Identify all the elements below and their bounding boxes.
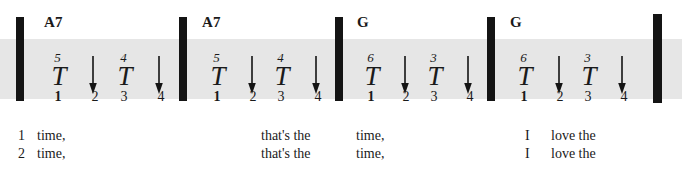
thumb-strum-symbol: 4T (108, 52, 142, 89)
lyric-verse-2-word-time: time, (37, 146, 65, 162)
barline-3 (335, 17, 343, 101)
thumb-letter-t: T (265, 63, 299, 89)
lyric-verse-2-word-time-2: time, (356, 146, 384, 162)
beat-count-label: 4 (149, 90, 173, 104)
beat-count-label: 1 (359, 90, 383, 104)
lyric-verse-2-ending-2: 2 (18, 146, 25, 162)
lyric-verse-1-ending-1: 1 (18, 128, 25, 144)
thumb-strum-symbol: 5T (201, 52, 235, 89)
thumb-strum-symbol: 6T (355, 52, 389, 89)
thumb-letter-t: T (508, 63, 542, 89)
lyric-verse-1-word-i: I (525, 128, 530, 144)
beat-count-label: 4 (306, 90, 330, 104)
lyric-verse-2-word-i: I (525, 146, 530, 162)
beat-count-label: 4 (458, 90, 482, 104)
lyric-verse-1-word-time-2: time, (356, 128, 384, 144)
thumb-strum-symbol: 3T (418, 52, 452, 89)
music-notation-sheet: A75T4T1234A75T4T1234G6T3T1234G6T3T1234 1… (0, 0, 682, 170)
beat-count-label: 3 (269, 90, 293, 104)
beat-count-label: 2 (394, 90, 418, 104)
thumb-letter-t: T (201, 63, 235, 89)
thumb-letter-t: T (108, 63, 142, 89)
barline-5 (653, 14, 662, 103)
thumb-strum-symbol: 3T (572, 52, 606, 89)
thumb-letter-t: T (572, 63, 606, 89)
lyric-verse-1-word-thats-the: that's the (261, 128, 311, 144)
beat-count-label: 3 (422, 90, 446, 104)
barline-1 (16, 17, 24, 101)
chord-symbol: G (357, 15, 369, 30)
beat-count-label: 3 (112, 90, 136, 104)
lyric-verse-1-word-time: time, (37, 128, 65, 144)
thumb-strum-symbol: 5T (42, 52, 76, 89)
thumb-letter-t: T (418, 63, 452, 89)
chord-symbol: G (510, 15, 522, 30)
beat-count-label: 2 (83, 90, 107, 104)
thumb-letter-t: T (42, 63, 76, 89)
beat-count-label: 4 (612, 90, 636, 104)
beat-count-label: 2 (241, 90, 265, 104)
barline-4 (487, 17, 495, 101)
thumb-letter-t: T (355, 63, 389, 89)
lyric-verse-2-word-love-the: love the (551, 146, 596, 162)
thumb-strum-symbol: 6T (508, 52, 542, 89)
beat-count-label: 2 (548, 90, 572, 104)
lyric-verse-2-word-thats-the: that's the (261, 146, 311, 162)
beat-count-label: 1 (512, 90, 536, 104)
beat-count-label: 3 (576, 90, 600, 104)
beat-count-label: 1 (205, 90, 229, 104)
lyric-verse-1-word-love-the: love the (551, 128, 596, 144)
barline-2 (179, 17, 187, 101)
beat-count-label: 1 (46, 90, 70, 104)
thumb-strum-symbol: 4T (265, 52, 299, 89)
chord-symbol: A7 (202, 15, 221, 30)
chord-symbol: A7 (44, 15, 63, 30)
